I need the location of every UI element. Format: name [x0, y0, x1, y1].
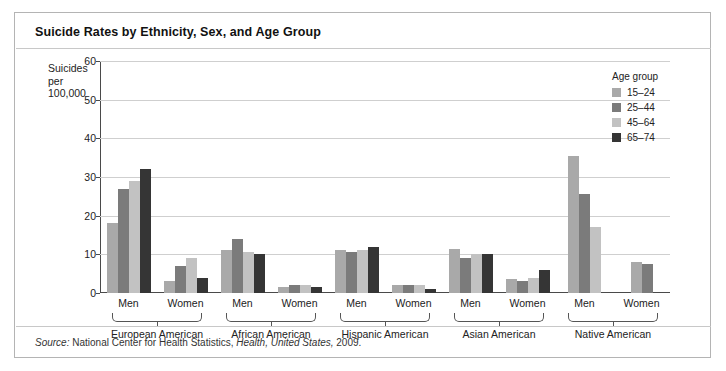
y-tick-mark: [96, 254, 100, 255]
x-axis-ethnicity-label: Native American: [556, 328, 670, 340]
y-tick-label: 10: [56, 249, 96, 260]
bar[interactable]: [311, 287, 322, 293]
y-tick-mark: [96, 138, 100, 139]
x-axis-sex-label: Men: [442, 297, 499, 309]
x-axis-sex-label: Women: [157, 297, 214, 309]
x-axis-ethnicity-label: Asian American: [442, 328, 556, 340]
bar[interactable]: [357, 250, 368, 293]
bar[interactable]: [232, 239, 243, 293]
legend-label-65-74: 65–74: [627, 132, 655, 143]
bar-cluster: [392, 61, 436, 293]
bar[interactable]: [243, 252, 254, 293]
bar[interactable]: [392, 285, 403, 293]
y-tick-label: 20: [56, 211, 96, 222]
legend-item: 15–24: [612, 86, 658, 98]
bar[interactable]: [175, 266, 186, 293]
bar[interactable]: [335, 250, 346, 293]
y-tick-mark: [96, 100, 100, 101]
bar-cluster: [107, 61, 151, 293]
bar[interactable]: [186, 258, 197, 293]
legend-title: Age group: [612, 71, 658, 82]
bar[interactable]: [460, 258, 471, 293]
bar[interactable]: [118, 189, 129, 293]
x-axis-sex-label: Men: [328, 297, 385, 309]
bar[interactable]: [278, 287, 289, 293]
y-axis-label-line-2: per: [48, 75, 104, 88]
source-agency: National Center for Health Statistics,: [72, 337, 233, 348]
bar[interactable]: [449, 249, 460, 293]
bar-cluster: [568, 61, 601, 293]
x-axis-sex-label: Women: [499, 297, 556, 309]
bar-cluster: [278, 61, 322, 293]
bar[interactable]: [425, 289, 436, 293]
x-axis-sex-label: Women: [385, 297, 442, 309]
bar[interactable]: [506, 279, 517, 293]
bar[interactable]: [642, 264, 653, 293]
y-tick-mark: [96, 177, 100, 178]
legend-swatch-15-24: [612, 88, 621, 97]
y-tick-mark: [96, 61, 100, 62]
x-axis-sex-label: Men: [214, 297, 271, 309]
bar[interactable]: [254, 254, 265, 293]
legend-swatch-25-44: [612, 103, 621, 112]
bar[interactable]: [414, 285, 425, 293]
bar[interactable]: [471, 254, 482, 293]
bar[interactable]: [517, 281, 528, 293]
bar[interactable]: [579, 194, 590, 293]
y-tick-label: 40: [56, 133, 96, 144]
y-tick-label: 30: [56, 172, 96, 183]
ethnicity-brace: [454, 313, 544, 322]
bar[interactable]: [289, 285, 300, 293]
bar[interactable]: [197, 278, 208, 293]
y-tick-label: 50: [56, 95, 96, 106]
y-tick-mark: [96, 293, 100, 294]
source-divider: [16, 326, 711, 327]
legend-item: 65–74: [612, 131, 658, 143]
bar[interactable]: [164, 281, 175, 293]
bar[interactable]: [221, 250, 232, 293]
source-year: 2009.: [336, 337, 361, 348]
bar[interactable]: [129, 181, 140, 293]
ethnicity-brace: [568, 313, 658, 322]
x-axis-sex-label: Men: [556, 297, 613, 309]
bar[interactable]: [300, 285, 311, 293]
bar[interactable]: [140, 169, 151, 293]
bar-cluster: [335, 61, 379, 293]
bar[interactable]: [568, 156, 579, 293]
bar-cluster: [221, 61, 265, 293]
chart-title: Suicide Rates by Ethnicity, Sex, and Age…: [35, 25, 321, 39]
bar-cluster: [449, 61, 493, 293]
bar[interactable]: [631, 262, 642, 293]
bar-cluster: [506, 61, 550, 293]
legend-label-15-24: 15–24: [627, 87, 655, 98]
y-tick-label: 60: [56, 56, 96, 67]
source-prefix: Source:: [35, 337, 69, 348]
bar-cluster: [164, 61, 208, 293]
x-axis-sex-label: Women: [271, 297, 328, 309]
plot-area: 0102030405060MenWomenEuropean AmericanMe…: [100, 61, 670, 293]
bar[interactable]: [482, 254, 493, 293]
ethnicity-brace: [112, 313, 202, 322]
legend-swatch-45-64: [612, 118, 621, 127]
bar[interactable]: [403, 285, 414, 293]
x-axis-sex-label: Men: [100, 297, 157, 309]
ethnicity-brace: [340, 313, 430, 322]
legend: Age group 15–24 25–44 45–64 65–74: [612, 71, 658, 146]
title-divider: [16, 48, 711, 49]
bar[interactable]: [528, 278, 539, 293]
y-tick-mark: [96, 216, 100, 217]
bar[interactable]: [346, 252, 357, 293]
legend-item: 45–64: [612, 116, 658, 128]
bar[interactable]: [539, 270, 550, 293]
source-note: Source: National Center for Health Stati…: [35, 337, 361, 348]
y-tick-label: 0: [56, 288, 96, 299]
figure-panel: Suicide Rates by Ethnicity, Sex, and Age…: [14, 12, 711, 358]
legend-label-25-44: 25–44: [627, 102, 655, 113]
legend-label-45-64: 45–64: [627, 117, 655, 128]
ethnicity-brace: [226, 313, 316, 322]
bar[interactable]: [590, 227, 601, 293]
bar[interactable]: [107, 223, 118, 293]
source-publication: Health, United States,: [236, 337, 333, 348]
legend-swatch-65-74: [612, 133, 621, 142]
bar[interactable]: [368, 247, 379, 293]
